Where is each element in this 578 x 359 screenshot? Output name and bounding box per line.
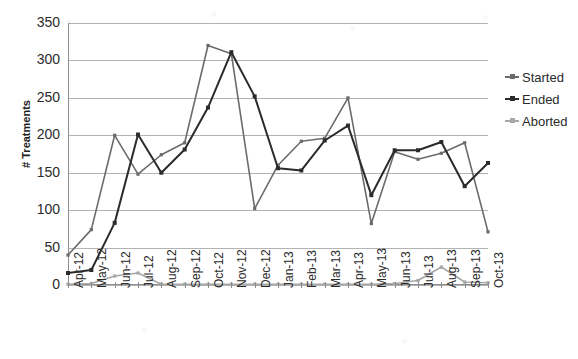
data-point bbox=[416, 148, 420, 152]
x-axis-tick-labels: Apr-12May-12Jun-12Jul-12Aug-12Sep-12Oct-… bbox=[68, 288, 488, 358]
x-tick-mark bbox=[348, 282, 349, 288]
data-point bbox=[206, 106, 210, 110]
data-point bbox=[253, 207, 256, 210]
data-point bbox=[89, 268, 93, 272]
data-series-layer bbox=[68, 23, 488, 285]
data-point bbox=[323, 139, 327, 143]
data-point bbox=[136, 133, 140, 137]
legend-swatch-icon bbox=[505, 71, 519, 83]
x-tick-mark bbox=[255, 282, 256, 288]
x-tick-label: Jul-12 bbox=[143, 255, 155, 288]
data-point bbox=[159, 171, 163, 175]
x-tick-label: Oct-12 bbox=[213, 252, 225, 288]
x-tick-mark bbox=[138, 282, 139, 288]
x-tick-mark bbox=[395, 282, 396, 288]
series-line-ended bbox=[68, 52, 488, 273]
series-line-started bbox=[68, 45, 488, 255]
x-tick-label: Sep-13 bbox=[470, 249, 482, 288]
data-point bbox=[440, 152, 443, 155]
plot-area bbox=[68, 23, 488, 285]
y-tick-label: 350 bbox=[26, 15, 60, 29]
chart-legend: StartedEndedAborted bbox=[505, 66, 578, 132]
x-tick-label: Mar-13 bbox=[330, 250, 342, 288]
x-tick-label: Aug-13 bbox=[446, 249, 458, 288]
legend-swatch-icon bbox=[505, 93, 519, 105]
y-tick-label: 200 bbox=[26, 127, 60, 141]
x-tick-mark bbox=[441, 282, 442, 288]
y-tick-label: 0 bbox=[26, 277, 60, 291]
x-tick-mark bbox=[68, 282, 69, 288]
data-point bbox=[183, 141, 186, 144]
data-point bbox=[346, 124, 350, 128]
legend-item-started[interactable]: Started bbox=[505, 66, 578, 88]
x-tick-label: Aug-12 bbox=[166, 249, 178, 288]
data-point bbox=[66, 271, 70, 275]
data-point bbox=[486, 230, 489, 233]
legend-label: Started bbox=[522, 70, 564, 85]
x-tick-mark bbox=[278, 282, 279, 288]
data-point bbox=[393, 148, 397, 152]
x-tick-mark bbox=[418, 282, 419, 288]
data-point bbox=[113, 274, 116, 277]
data-point bbox=[300, 140, 303, 143]
x-tick-label: Dec-12 bbox=[260, 249, 272, 288]
y-tick-label: 50 bbox=[26, 240, 60, 254]
data-point bbox=[346, 96, 349, 99]
data-point bbox=[416, 158, 419, 161]
data-point bbox=[136, 271, 139, 274]
data-point bbox=[439, 140, 443, 144]
x-tick-label: Jun-12 bbox=[120, 251, 132, 288]
legend-swatch-icon bbox=[505, 115, 519, 127]
x-tick-label: Jan-13 bbox=[283, 251, 295, 288]
y-tick-label: 250 bbox=[26, 90, 60, 104]
x-tick-label: Apr-13 bbox=[353, 252, 365, 288]
x-tick-mark bbox=[488, 282, 489, 288]
legend-label: Ended bbox=[522, 92, 560, 107]
x-tick-mark bbox=[371, 282, 372, 288]
x-tick-mark bbox=[161, 282, 162, 288]
x-tick-mark bbox=[91, 282, 92, 288]
x-tick-mark bbox=[115, 282, 116, 288]
data-point bbox=[440, 265, 443, 268]
data-point bbox=[370, 222, 373, 225]
data-point bbox=[486, 161, 490, 165]
data-point bbox=[113, 134, 116, 137]
data-point bbox=[463, 141, 466, 144]
data-point bbox=[183, 148, 187, 152]
data-point bbox=[229, 50, 233, 54]
x-tick-label: May-13 bbox=[376, 248, 388, 288]
y-tick-label: 150 bbox=[26, 165, 60, 179]
data-point bbox=[463, 184, 467, 188]
x-tick-label: Sep-12 bbox=[190, 249, 202, 288]
data-point bbox=[66, 253, 69, 256]
data-point bbox=[206, 44, 209, 47]
x-tick-mark bbox=[231, 282, 232, 288]
x-tick-mark bbox=[208, 282, 209, 288]
x-tick-label: Jun-13 bbox=[400, 251, 412, 288]
x-tick-mark bbox=[465, 282, 466, 288]
data-point bbox=[160, 153, 163, 156]
y-tick-label: 100 bbox=[26, 202, 60, 216]
y-tick-label: 300 bbox=[26, 52, 60, 66]
x-tick-label: Jul-13 bbox=[423, 255, 435, 288]
y-axis-tick-labels: 350300250200150100500 bbox=[20, 0, 60, 359]
x-tick-mark bbox=[185, 282, 186, 288]
x-tick-label: Oct-13 bbox=[493, 252, 505, 288]
data-point bbox=[113, 221, 117, 225]
x-tick-label: May-12 bbox=[96, 248, 108, 288]
x-tick-label: Apr-12 bbox=[73, 252, 85, 288]
data-point bbox=[90, 228, 93, 231]
data-point bbox=[136, 173, 139, 176]
line-chart: # Treatments 350300250200150100500 Apr-1… bbox=[0, 0, 578, 359]
data-point bbox=[276, 166, 280, 170]
data-point bbox=[369, 193, 373, 197]
x-tick-mark bbox=[301, 282, 302, 288]
legend-item-ended[interactable]: Ended bbox=[505, 88, 578, 110]
data-point bbox=[253, 94, 257, 98]
x-tick-label: Feb-13 bbox=[306, 250, 318, 288]
x-tick-mark bbox=[325, 282, 326, 288]
data-point bbox=[299, 168, 303, 172]
x-tick-label: Nov-12 bbox=[236, 249, 248, 288]
legend-item-aborted[interactable]: Aborted bbox=[505, 110, 578, 132]
legend-label: Aborted bbox=[522, 114, 568, 129]
